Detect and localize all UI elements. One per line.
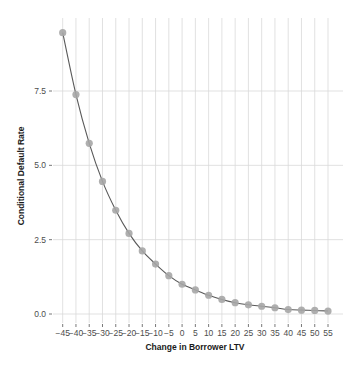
x-tick-label: 20 xyxy=(230,328,240,338)
x-axis-ticks: −45−40−35−30−25−20−15−10−505101520253035… xyxy=(55,324,333,338)
data-point xyxy=(311,307,318,314)
data-point xyxy=(125,230,132,237)
data-point xyxy=(298,307,305,314)
y-axis-title: Conditional Default Rate xyxy=(16,126,26,225)
x-tick-label: 5 xyxy=(193,328,198,338)
data-point xyxy=(112,207,119,214)
data-point xyxy=(72,91,79,98)
gridlines xyxy=(53,18,343,323)
data-point xyxy=(192,286,199,293)
x-tick-label: 30 xyxy=(257,328,267,338)
x-tick-label: 15 xyxy=(217,328,227,338)
x-tick-label: −10 xyxy=(148,328,163,338)
data-point xyxy=(165,272,172,279)
x-tick-label: −5 xyxy=(164,328,174,338)
data-point xyxy=(139,247,146,254)
data-point xyxy=(285,306,292,313)
data-point xyxy=(152,260,159,267)
data-point xyxy=(205,292,212,299)
x-tick-label: 50 xyxy=(310,328,320,338)
data-point xyxy=(245,301,252,308)
x-tick-label: 25 xyxy=(244,328,254,338)
data-point xyxy=(178,281,185,288)
x-tick-label: 55 xyxy=(323,328,333,338)
y-tick-label: 2.5 xyxy=(34,235,46,245)
y-axis-ticks: 0.02.55.07.5 xyxy=(34,86,52,319)
line-chart: −45−40−35−30−25−20−15−10−505101520253035… xyxy=(0,0,359,374)
x-tick-label: 40 xyxy=(283,328,293,338)
data-point xyxy=(271,304,278,311)
y-tick-label: 0.0 xyxy=(34,309,46,319)
data-point xyxy=(99,178,106,185)
x-tick-label: 35 xyxy=(270,328,280,338)
data-point xyxy=(258,303,265,310)
x-tick-label: 45 xyxy=(297,328,307,338)
data-point xyxy=(86,140,93,147)
x-tick-label: 0 xyxy=(180,328,185,338)
data-point xyxy=(218,296,225,303)
data-point xyxy=(232,299,239,306)
x-tick-label: 10 xyxy=(204,328,214,338)
y-tick-label: 7.5 xyxy=(34,86,46,96)
x-axis-title: Change in Borrower LTV xyxy=(145,342,244,352)
data-point xyxy=(324,307,331,314)
chart-container: −45−40−35−30−25−20−15−10−505101520253035… xyxy=(0,0,359,374)
data-point xyxy=(59,29,66,36)
y-tick-label: 5.0 xyxy=(34,160,46,170)
